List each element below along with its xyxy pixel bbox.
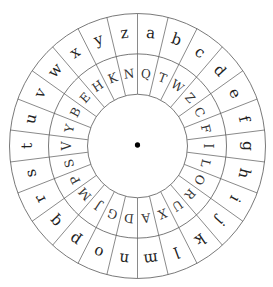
outer-ring-letter: s — [21, 167, 40, 179]
cipher-wheel: abcdefghijklmnopqrstuvwxyz QTWZCFILORUXA… — [0, 0, 273, 287]
inner-ring-letter: T — [156, 70, 169, 87]
outer-ring-letter: j — [212, 212, 230, 229]
outer-ring-letter: y — [90, 29, 105, 50]
outer-ring-letter: k — [191, 229, 209, 250]
outer-ring-letter: i — [226, 192, 244, 205]
inner-ring-letter: O — [191, 172, 208, 188]
outer-ring-letter: w — [44, 59, 66, 81]
inner-ring-letter: P — [68, 173, 84, 187]
outer-ring-letter: x — [67, 42, 84, 62]
outer-ring-letter: f — [235, 114, 254, 125]
outer-ring-letter: c — [192, 42, 209, 62]
outer-ring-letter: d — [210, 61, 230, 81]
outer-ring-letter: g — [239, 141, 257, 151]
inner-ring-letter: Q — [140, 66, 151, 81]
inner-ring-letter: M — [76, 185, 94, 204]
cipher-wheel-group: abcdefghijklmnopqrstuvwxyz QTWZCFILORUXA… — [10, 14, 266, 279]
inner-ring-letter: V — [61, 141, 75, 151]
outer-ring-letter: q — [45, 212, 65, 232]
inner-ring-letter: C — [191, 105, 207, 120]
outer-ring-letter: l — [171, 243, 182, 262]
inner-ring-letter: A — [141, 210, 152, 225]
inner-ring-letter: N — [123, 66, 135, 81]
outer-ring-letter: h — [235, 166, 255, 180]
inner-ring-letter: J — [92, 198, 105, 214]
inner-ring-letter: Y — [62, 122, 78, 135]
outer-ring-letter: r — [30, 191, 49, 207]
outer-ring-letter: n — [118, 249, 130, 268]
inner-ring-letter: F — [198, 123, 213, 135]
outer-ring-letter: u — [21, 112, 41, 126]
outer-ring-letter: m — [142, 249, 159, 269]
outer-ring-letter: z — [119, 23, 129, 42]
inner-ring-letter: X — [156, 206, 169, 223]
outer-ring-letter: v — [30, 85, 50, 103]
outer-ring-letter: p — [66, 229, 84, 250]
outer-ring-letter: o — [91, 242, 106, 262]
center-pivot-dot — [135, 142, 140, 147]
inner-ring-letter: D — [123, 210, 134, 225]
inner-ring-letter: E — [77, 90, 93, 106]
outer-ring-letter: a — [145, 23, 156, 42]
inner-ring-letter: K — [106, 70, 120, 87]
outer-ring-letter: t — [19, 142, 37, 149]
inner-ring-letter: L — [198, 158, 213, 169]
inner-ring-letter: I — [201, 144, 215, 149]
inner-ring-letter: B — [67, 105, 83, 120]
inner-ring-letter: S — [62, 158, 77, 170]
inner-ring-letter: Z — [182, 90, 198, 106]
outer-ring-letter: b — [169, 29, 184, 50]
outer-ring-letter: e — [225, 85, 245, 102]
inner-ring-letter: G — [106, 205, 120, 222]
